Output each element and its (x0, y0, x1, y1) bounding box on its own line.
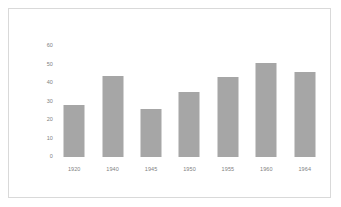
bar-group: 1964 (286, 9, 324, 199)
bar-group: 1920 (55, 9, 93, 199)
y-axis-tick-label: 0 (27, 154, 53, 160)
y-axis-tick-label: 50 (27, 62, 53, 68)
chart-frame: 0102030405060 19201940194519501955196019… (8, 8, 331, 198)
x-axis-tick-label: 1920 (68, 167, 81, 173)
y-axis: 0102030405060 (23, 9, 53, 199)
bar[interactable] (102, 76, 123, 157)
bar[interactable] (294, 72, 315, 157)
bar[interactable] (179, 92, 200, 157)
y-axis-tick-label: 40 (27, 80, 53, 86)
bars-region: 1920194019451950195519601964 (55, 9, 324, 199)
y-axis-tick-label: 60 (27, 43, 53, 49)
plot-area: 0102030405060 19201940194519501955196019… (9, 9, 330, 197)
bar-group: 1960 (247, 9, 285, 199)
y-axis-tick-label: 30 (27, 99, 53, 105)
x-axis-tick-label: 1955 (222, 167, 235, 173)
bar[interactable] (256, 63, 277, 157)
bar[interactable] (217, 77, 238, 157)
x-axis-tick-label: 1964 (298, 167, 311, 173)
bar[interactable] (64, 105, 85, 157)
x-axis-tick-label: 1945 (145, 167, 158, 173)
x-axis-tick-label: 1950 (183, 167, 196, 173)
bar-group: 1955 (209, 9, 247, 199)
y-axis-tick-label: 20 (27, 117, 53, 123)
x-axis-tick-label: 1940 (106, 167, 119, 173)
bar-group: 1940 (93, 9, 131, 199)
bar-group: 1950 (170, 9, 208, 199)
y-axis-tick-label: 10 (27, 136, 53, 142)
bar[interactable] (141, 109, 162, 157)
x-axis-tick-label: 1960 (260, 167, 273, 173)
bar-group: 1945 (132, 9, 170, 199)
